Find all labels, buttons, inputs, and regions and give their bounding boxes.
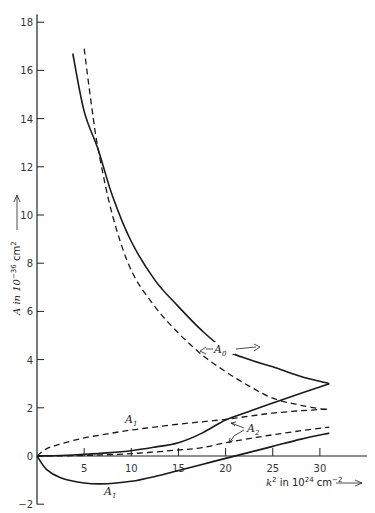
y-tick-label: −2 [18,499,33,510]
x-tick-label: 30 [314,463,327,474]
curve-a2-solid [37,384,329,456]
y-tick-label: 16 [20,65,33,76]
line-chart: −202468101214161851015202530 A0 A1 A1 [0,0,375,513]
curves [37,49,329,484]
x-axis-label: k2 in 1024 cm−2 [266,476,342,488]
a0-annotation: A0 [200,342,260,358]
chart-container: −202468101214161851015202530 A0 A1 A1 [0,0,375,513]
curve-a0-dashed [84,49,329,411]
x-tick-label: 20 [219,463,232,474]
y-tick-label: 8 [27,258,33,269]
a1-dashed-label: A1 [124,413,137,428]
x-tick-label: 25 [266,463,279,474]
y-tick-label: 14 [20,114,33,125]
y-tick-label: 6 [27,306,33,317]
curve-a0-solid [73,54,330,384]
annotations: A0 A1 A1 A2 A in 10−36 cm2 k2 in 1024 cm… [10,195,362,500]
y-tick-label: 2 [27,403,33,414]
y-tick-label: 4 [27,355,33,366]
a2-annotation: A2 [229,422,260,443]
arrow-left-icon [200,347,206,354]
y-axis-arrow-icon [14,195,20,230]
y-tick-label: 12 [20,162,33,173]
x-tick-label: 5 [81,463,87,474]
svg-text:A2: A2 [246,422,260,437]
a1-solid-label: A1 [103,485,116,500]
y-axis-label: A in 10−36 cm2 [10,241,22,316]
y-tick-label: 18 [20,17,33,28]
x-tick-label: 10 [125,463,138,474]
y-tick-label: 10 [20,210,33,221]
y-tick-label: 0 [27,451,33,462]
